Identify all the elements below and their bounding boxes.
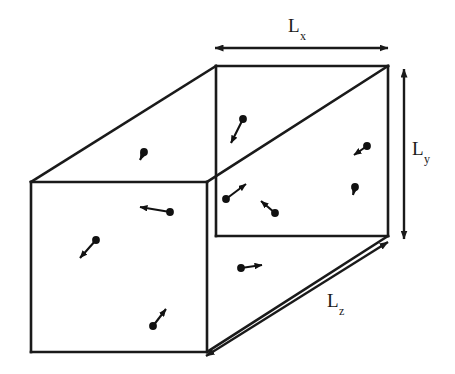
particle	[80, 236, 100, 258]
box-back-face	[216, 66, 388, 236]
particle	[237, 264, 262, 272]
dimension-arrows	[206, 48, 404, 356]
depth-edge-top-left	[31, 66, 216, 182]
depth-edge-top-right	[207, 66, 388, 182]
label-lz-base: L	[327, 290, 339, 311]
particle	[222, 184, 246, 203]
particle	[140, 148, 148, 160]
label-ly-base: L	[412, 138, 424, 159]
gas-box-figure: Lx Ly Lz	[0, 0, 455, 374]
particle	[261, 201, 279, 217]
box-front-face	[31, 182, 207, 352]
label-lx-subscript: x	[300, 29, 307, 43]
particle	[231, 115, 247, 143]
label-lx: Lx	[288, 16, 307, 39]
particle-dot	[166, 208, 174, 216]
particle-dot	[271, 209, 279, 217]
particle	[354, 142, 371, 155]
particle-dot	[92, 236, 100, 244]
particle-dot	[149, 322, 157, 330]
figure-canvas	[0, 0, 455, 374]
particle-dot	[237, 264, 245, 272]
depth-edge-bottom-right	[207, 236, 388, 352]
particle-dot	[239, 115, 247, 123]
particle	[351, 183, 359, 195]
particle-dot	[351, 183, 359, 191]
particle	[140, 207, 174, 216]
velocity-vector	[231, 119, 243, 143]
label-lz: Lz	[327, 291, 345, 314]
velocity-vector	[140, 207, 170, 212]
particle	[149, 309, 166, 330]
label-lx-base: L	[288, 15, 300, 36]
particle-dot	[363, 142, 371, 150]
label-ly: Ly	[412, 139, 431, 162]
label-lz-subscript: z	[339, 304, 345, 318]
particle-dot	[140, 148, 148, 156]
particle-dot	[222, 195, 230, 203]
label-ly-subscript: y	[424, 152, 431, 166]
lz-arrow	[206, 242, 388, 356]
